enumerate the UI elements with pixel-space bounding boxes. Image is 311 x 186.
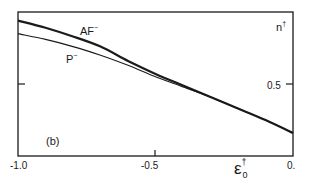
series-af-label: AF−	[80, 26, 98, 38]
series-af-sup: −	[94, 24, 98, 31]
x-tick-label-neg1: -1.0	[10, 160, 27, 171]
x-axis-label-sup: †	[242, 157, 247, 167]
series-p-sup: −	[73, 52, 77, 59]
x-axis-label-main: ε	[234, 159, 242, 178]
series-p-line	[18, 34, 293, 133]
x-axis-label-sub: 0	[243, 170, 248, 180]
y-tick-label-0-5: 0.5	[267, 80, 281, 91]
chart-plot-area	[0, 0, 311, 186]
series-p-label: P−	[66, 54, 77, 66]
x-tick-label-0: 0.	[287, 160, 295, 171]
series-af-text: AF	[80, 25, 94, 37]
plot-frame	[18, 12, 293, 156]
y-axis-label: n†	[276, 22, 286, 34]
panel-label: (b)	[46, 136, 59, 147]
x-tick-label-neg0-5: -0.5	[141, 160, 158, 171]
y-axis-label-sup: †	[282, 20, 286, 27]
x-axis-label: ε†0	[234, 160, 248, 180]
